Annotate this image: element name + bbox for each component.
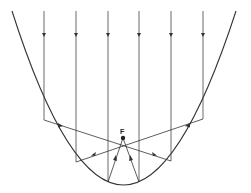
down-arrow-icon xyxy=(106,33,110,37)
parabola-curve xyxy=(12,11,236,185)
down-arrow-icon xyxy=(74,33,78,37)
focus-point xyxy=(121,136,125,140)
down-arrow-icon xyxy=(137,33,141,37)
focus-label: F xyxy=(120,128,125,135)
down-arrow-icon xyxy=(169,33,173,37)
incoming-rays xyxy=(44,11,203,182)
down-arrow-icon xyxy=(201,33,205,37)
parabolic-reflector-diagram: F xyxy=(0,0,251,193)
arrow-icon xyxy=(58,123,63,128)
diagram-canvas: F xyxy=(0,0,251,193)
arrow-icon xyxy=(113,155,117,161)
reflected-ray xyxy=(44,120,171,161)
down-arrow-icon xyxy=(42,33,46,37)
down-arrow-icons xyxy=(42,33,205,37)
